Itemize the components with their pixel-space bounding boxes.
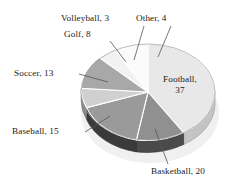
slice-label-soccer: Soccer, 13 xyxy=(14,68,53,79)
slice-label-football-name: Football, xyxy=(163,74,197,84)
slice-label-other: Other, 4 xyxy=(136,13,167,24)
slice-label-golf: Golf, 8 xyxy=(64,29,91,40)
slice-label-baseball: Baseball, 15 xyxy=(12,126,59,137)
slice-label-basketball: Basketball, 20 xyxy=(151,166,205,177)
pie-chart-graphic xyxy=(0,0,232,191)
slice-label-volleyball: Volleyball, 3 xyxy=(61,13,109,24)
slice-label-football: Football, 37 xyxy=(156,74,204,95)
pie-chart: Volleyball, 3 Other, 4 Golf, 8 Soccer, 1… xyxy=(0,0,232,191)
slice-label-football-value: 37 xyxy=(175,85,184,95)
